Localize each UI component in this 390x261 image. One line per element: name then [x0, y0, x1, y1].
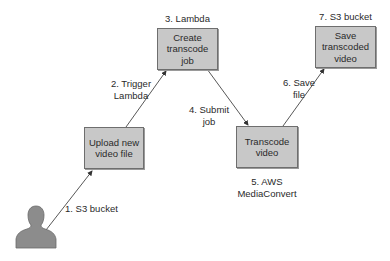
node-transcode-video: Transcode video — [236, 126, 298, 168]
edge-label-save-line-1: 6. Save — [279, 77, 319, 89]
edge-label-submit-line-1: 4. Submit — [186, 104, 232, 116]
edge-label-trigger-line-2: Lambda — [108, 90, 154, 102]
node-transcode-line-1: Transcode — [245, 136, 290, 148]
node-save-line-1: Save — [322, 30, 369, 42]
node-create-transcode-job: Create transcode job — [157, 28, 218, 70]
caption-mediaconvert-line-2: MediaConvert — [232, 188, 302, 200]
edge-label-save-file: 6. Save file — [279, 77, 319, 100]
edge-label-trigger-lambda: 2. Trigger Lambda — [108, 78, 154, 101]
edge-label-trigger-line-1: 2. Trigger — [108, 78, 154, 90]
node-create-line-3: job — [167, 55, 209, 67]
edge-label-s3-bucket: 1. S3 bucket — [65, 203, 118, 215]
node-save-line-2: transcoded — [322, 41, 369, 53]
node-upload-video: Upload new video file — [84, 127, 144, 169]
node-transcode-line-2: video — [245, 147, 290, 159]
node-create-line-2: transcode — [167, 43, 209, 55]
caption-mediaconvert-line-1: 5. AWS — [232, 176, 302, 188]
caption-mediaconvert: 5. AWS MediaConvert — [232, 176, 302, 199]
node-create-line-1: Create — [167, 32, 209, 44]
caption-s3-bucket-output: 7. S3 bucket — [315, 11, 376, 23]
edge-label-submit-job: 4. Submit job — [186, 104, 232, 127]
edge-label-submit-line-2: job — [186, 116, 232, 128]
node-save-transcoded-video: Save transcoded video — [315, 26, 376, 68]
caption-lambda: 3. Lambda — [157, 13, 218, 25]
node-save-line-3: video — [322, 53, 369, 65]
person-icon — [15, 205, 57, 249]
edge-label-save-line-2: file — [279, 89, 319, 101]
node-upload-line-1: Upload new — [89, 137, 139, 149]
node-upload-line-2: video file — [89, 148, 139, 160]
